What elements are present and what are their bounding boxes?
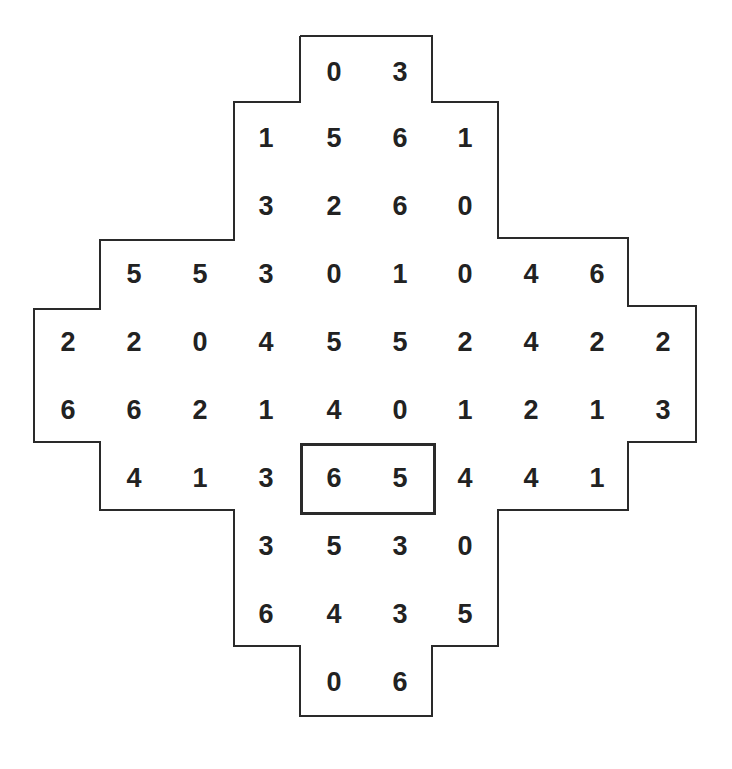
grid-cell: 3: [246, 254, 286, 294]
grid-cell: 2: [314, 186, 354, 226]
grid-cell: 4: [114, 458, 154, 498]
grid-cell: 4: [246, 322, 286, 362]
grid-cell: 2: [445, 322, 485, 362]
grid-cell: 2: [48, 322, 88, 362]
grid-cell: 3: [643, 390, 683, 430]
grid-cell: 1: [577, 458, 617, 498]
grid-cell: 6: [48, 390, 88, 430]
grid-cell: 1: [246, 390, 286, 430]
grid-cell: 3: [380, 526, 420, 566]
grid-cell: 0: [314, 52, 354, 92]
grid-cell: 6: [314, 458, 354, 498]
grid-cell: 5: [380, 458, 420, 498]
grid-cell: 1: [577, 390, 617, 430]
grid-cell: 6: [380, 186, 420, 226]
grid-cell: 4: [314, 390, 354, 430]
grid-cell: 4: [314, 594, 354, 634]
puzzle-board: 0315613260553010462204552422662140121341…: [0, 0, 732, 769]
grid-cell: 0: [314, 662, 354, 702]
grid-cell: 2: [114, 322, 154, 362]
grid-cell: 3: [380, 52, 420, 92]
grid-cell: 6: [246, 594, 286, 634]
grid-cell: 5: [180, 254, 220, 294]
grid-cell: 1: [380, 254, 420, 294]
grid-cell: 3: [246, 186, 286, 226]
grid-cell: 6: [577, 254, 617, 294]
grid-cell: 0: [180, 322, 220, 362]
grid-cell: 0: [445, 186, 485, 226]
grid-cell: 2: [577, 322, 617, 362]
board-outline: [0, 0, 732, 769]
grid-cell: 2: [511, 390, 551, 430]
grid-cell: 4: [511, 322, 551, 362]
grid-cell: 2: [643, 322, 683, 362]
grid-cell: 1: [445, 390, 485, 430]
grid-cell: 3: [246, 526, 286, 566]
grid-cell: 0: [380, 390, 420, 430]
grid-cell: 5: [314, 118, 354, 158]
grid-cell: 4: [511, 458, 551, 498]
grid-cell: 4: [511, 254, 551, 294]
grid-cell: 1: [246, 118, 286, 158]
grid-cell: 5: [445, 594, 485, 634]
grid-cell: 5: [314, 526, 354, 566]
grid-cell: 6: [380, 118, 420, 158]
grid-cell: 5: [380, 322, 420, 362]
grid-cell: 0: [445, 526, 485, 566]
grid-cell: 6: [380, 662, 420, 702]
grid-cell: 5: [314, 322, 354, 362]
grid-cell: 4: [445, 458, 485, 498]
grid-cell: 3: [246, 458, 286, 498]
grid-cell: 1: [180, 458, 220, 498]
grid-cell: 5: [114, 254, 154, 294]
grid-cell: 6: [114, 390, 154, 430]
grid-cell: 1: [445, 118, 485, 158]
grid-cell: 0: [314, 254, 354, 294]
grid-cell: 0: [445, 254, 485, 294]
grid-cell: 3: [380, 594, 420, 634]
grid-cell: 2: [180, 390, 220, 430]
